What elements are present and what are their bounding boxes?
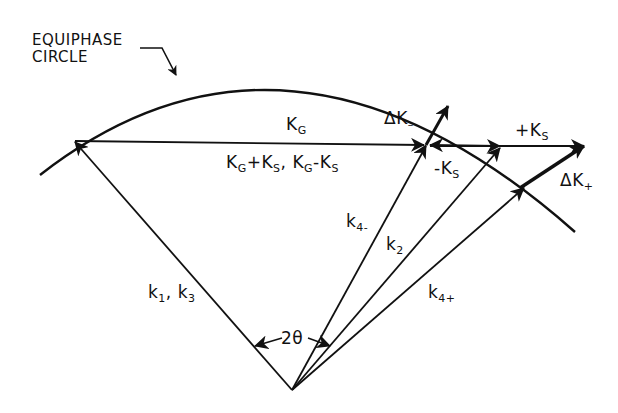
k2-sub: 2 [396, 244, 404, 257]
k4-plus-label: k4+ [428, 284, 456, 301]
k2-vector [292, 148, 500, 390]
pks-sub: S [541, 130, 548, 143]
k4p-base: k [428, 282, 438, 302]
plus-ks-label: +KS [515, 122, 549, 139]
dkm-base: ΔK [384, 108, 408, 128]
k13-a-sub: 1 [158, 292, 166, 305]
angle-arrow-left [255, 338, 282, 346]
k4m-base: k [346, 211, 356, 231]
k1-k3-label: k1, k3 [148, 284, 196, 301]
t4: S [273, 162, 280, 175]
k2-base: k [386, 234, 396, 254]
t6: K [292, 152, 304, 172]
t9: S [331, 162, 338, 175]
t8: -K [313, 152, 331, 172]
k4-plus-vector [292, 188, 524, 390]
kg-base: K [286, 114, 298, 134]
k4m-sub: 4- [356, 221, 368, 234]
t1: K [226, 152, 238, 172]
kg-combination-label: KG+KS, KG-KS [226, 154, 339, 171]
kg-vector [75, 141, 424, 145]
two-theta-label: 2θ [281, 330, 303, 347]
k13-sep: , k [166, 282, 188, 302]
delta-k-plus-label: ΔK+ [560, 172, 594, 189]
label-line-2: CIRCLE [32, 49, 123, 66]
delta-k-minus-label: ΔK– [384, 110, 414, 127]
dkm-sub: – [408, 118, 414, 131]
k1-k3-vector [75, 142, 292, 390]
t7: G [304, 162, 313, 175]
k4p-sub: 4+ [438, 292, 455, 305]
k13-a: k [148, 282, 158, 302]
k4-minus-vector [292, 146, 426, 390]
t2: G [238, 162, 247, 175]
k2-label: k2 [386, 236, 404, 253]
mks-sub: S [452, 168, 459, 181]
minus-ks-label: -KS [434, 160, 460, 177]
t3: +K [247, 152, 273, 172]
equiphase-circle-label: EQUIPHASE CIRCLE [32, 32, 123, 66]
t5: , [281, 152, 293, 172]
dkp-base: ΔK [560, 170, 584, 190]
k13-b-sub: 3 [188, 292, 196, 305]
kg-sub: G [298, 124, 307, 137]
pks-base: +K [515, 120, 541, 140]
label-line-1: EQUIPHASE [32, 32, 123, 49]
k4-minus-label: k4- [346, 213, 368, 230]
mks-base: -K [434, 158, 452, 178]
kg-label: KG [286, 116, 307, 133]
dkp-sub: + [584, 180, 594, 193]
label-leader-arrow [140, 48, 176, 75]
